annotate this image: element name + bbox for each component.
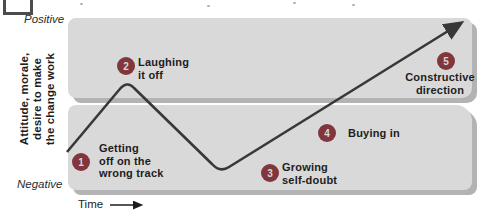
stage-2-label: Laughing it off (138, 56, 189, 81)
stage-5-label: Constructive direction (394, 71, 486, 96)
stage-1-marker: 1 (72, 153, 90, 171)
stage-1-label-line-2: off on the (99, 155, 164, 168)
stage-4-label: Buying in (348, 127, 400, 140)
stage-1-label-line-1: Getting (99, 142, 164, 155)
stage-3-number: 3 (267, 168, 273, 179)
stage-1-label-line-3: wrong track (99, 167, 164, 180)
stage-5-label-line-2: direction (394, 84, 486, 97)
stage-3-label-line-1: Growing (282, 161, 337, 174)
curve-overlay (0, 0, 488, 220)
stage-1-number: 1 (78, 157, 84, 168)
stage-5-number: 5 (443, 56, 449, 67)
stage-3-label-line-2: self-doubt (282, 174, 337, 187)
stage-2-label-line-2: it off (138, 69, 189, 82)
stage-5-label-line-1: Constructive (394, 71, 486, 84)
stage-1-label: Getting off on the wrong track (99, 142, 164, 180)
stage-2-label-line-1: Laughing (138, 56, 189, 69)
stage-3-marker: 3 (261, 164, 279, 182)
stage-2-marker: 2 (117, 57, 135, 75)
stage-4-number: 4 (324, 128, 330, 139)
stage-5-marker: 5 (437, 52, 455, 70)
stage-4-marker: 4 (318, 124, 336, 142)
stage-2-number: 2 (123, 61, 129, 72)
stage-3-label: Growing self-doubt (282, 161, 337, 186)
change-curve-figure: Positive Negative Attitude, morale, desi… (0, 0, 488, 220)
stage-4-label-line-1: Buying in (348, 127, 400, 140)
